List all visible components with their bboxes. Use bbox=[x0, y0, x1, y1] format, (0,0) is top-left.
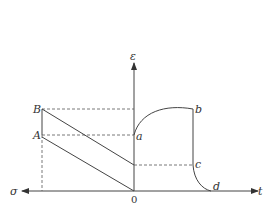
diagram-svg: ε t σ 0 B A a b c d bbox=[0, 0, 271, 219]
epsilon-label: ε bbox=[130, 50, 136, 63]
point-b-label: b bbox=[195, 103, 202, 116]
strain-curve bbox=[134, 108, 211, 191]
point-c-label: c bbox=[195, 158, 201, 171]
t-label: t bbox=[258, 185, 263, 198]
point-B-label: B bbox=[32, 103, 41, 116]
point-A-label: A bbox=[32, 129, 41, 142]
strain-stress-time-diagram: ε t σ 0 B A a b c d bbox=[0, 0, 271, 219]
stress-lines bbox=[42, 109, 134, 191]
point-a-label: a bbox=[136, 130, 143, 143]
sigma-label: σ bbox=[10, 185, 18, 198]
origin-label: 0 bbox=[131, 194, 137, 205]
point-d-label: d bbox=[213, 180, 220, 193]
